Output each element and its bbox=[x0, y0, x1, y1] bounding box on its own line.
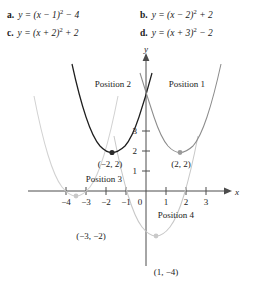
x-tick-label-3: 3 bbox=[204, 197, 209, 207]
label-position-1: Position 1 bbox=[169, 79, 205, 89]
x-axis bbox=[28, 188, 232, 195]
graph-svg: −4 −3 −2 −1 0 1 2 3 1 2 3 x y Position 2… bbox=[0, 46, 271, 283]
vertex-dot-position-2 bbox=[109, 150, 114, 155]
y-tick-label-3: 3 bbox=[133, 126, 138, 136]
parabola-graph: −4 −3 −2 −1 0 1 2 3 1 2 3 x y Position 2… bbox=[0, 46, 271, 283]
vertex-label-position-1: (2, 2) bbox=[171, 159, 191, 169]
vertex-label-position-3: (−3, −2) bbox=[76, 231, 106, 241]
equation-choice-list: a.y = (x − 1)2 − 4 c.y = (x + 2)2 + 2 b.… bbox=[0, 0, 271, 46]
equation-choice-c-key: c. bbox=[7, 28, 14, 38]
x-tick-label--3: −3 bbox=[81, 197, 91, 207]
label-position-2: Position 2 bbox=[95, 79, 131, 89]
x-tick-label--1: −1 bbox=[121, 197, 131, 207]
x-tick-label--2: −2 bbox=[101, 197, 111, 207]
x-tick-label--4: −4 bbox=[61, 197, 71, 207]
equation-choice-a: a.y = (x − 1)2 − 4 bbox=[7, 9, 79, 21]
curve-position-1 bbox=[140, 64, 221, 153]
y-axis-arrow bbox=[143, 53, 150, 61]
equation-choice-a-text: y = (x − 1)2 − 4 bbox=[18, 10, 79, 20]
vertex-dot-position-3 bbox=[74, 194, 79, 199]
y-tick-label-2: 2 bbox=[133, 146, 138, 156]
x-tick-label-0: 0 bbox=[138, 197, 143, 207]
x-tick-label-2: 2 bbox=[184, 197, 189, 207]
equation-choice-b-text: y = (x − 2)2 + 2 bbox=[152, 10, 213, 20]
vertex-dot-position-1 bbox=[178, 150, 183, 155]
equation-choice-a-key: a. bbox=[7, 10, 14, 20]
vertex-dot-position-4 bbox=[154, 234, 159, 239]
equation-choice-c: c.y = (x + 2)2 + 2 bbox=[7, 27, 79, 39]
curve-position-2 bbox=[72, 64, 152, 153]
y-tick-label-1: 1 bbox=[133, 166, 138, 176]
equation-choice-d-key: d. bbox=[140, 28, 148, 38]
x-tick-label-1: 1 bbox=[164, 197, 169, 207]
equation-choice-c-text: y = (x + 2)2 + 2 bbox=[18, 28, 79, 38]
label-position-3: Position 3 bbox=[86, 174, 123, 184]
equation-choice-b-key: b. bbox=[140, 10, 148, 20]
y-axis-label: y bbox=[143, 46, 148, 54]
label-position-4: Position 4 bbox=[158, 210, 195, 220]
vertex-label-position-2: (−2, 2) bbox=[98, 159, 123, 169]
vertex-label-position-4: (1, −4) bbox=[154, 267, 179, 277]
equation-choice-b: b.y = (x − 2)2 + 2 bbox=[140, 9, 213, 21]
x-axis-label: x bbox=[234, 187, 239, 197]
x-axis-arrow bbox=[224, 188, 232, 195]
equation-choice-d: d.y = (x + 3)2 − 2 bbox=[140, 27, 213, 39]
equation-choice-d-text: y = (x + 3)2 − 2 bbox=[152, 28, 213, 38]
